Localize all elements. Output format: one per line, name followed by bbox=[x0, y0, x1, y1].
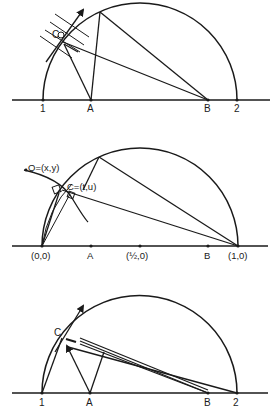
line-to-b-3 bbox=[80, 338, 208, 390]
figure-2: Q=(x,y) C=(t,u) (0,0) A (½,0) B (1,0) bbox=[12, 148, 268, 261]
label-1: 1 bbox=[39, 397, 45, 408]
label-c: C bbox=[52, 29, 59, 40]
hatch-line bbox=[45, 30, 80, 52]
point-1 bbox=[41, 98, 44, 101]
point-a bbox=[89, 244, 92, 247]
label-q: Q=(x,y) bbox=[28, 162, 59, 173]
label-one: (1,0) bbox=[228, 250, 248, 261]
label-half: (½,0) bbox=[126, 250, 148, 261]
line-top-to-b bbox=[100, 12, 208, 100]
label-c: C=(t,u) bbox=[67, 181, 96, 192]
label-c: C bbox=[54, 327, 61, 338]
geometry-diagrams: C 1 A B 2 Q=(x,y) C=(t,u) (0,0) A (½,0) bbox=[0, 0, 280, 420]
figure-3: C 1 A B 2 bbox=[12, 296, 268, 409]
point-2 bbox=[235, 98, 238, 101]
label-origin: (0,0) bbox=[31, 250, 51, 261]
hatch-line bbox=[55, 14, 89, 37]
line-to-b-2 bbox=[80, 344, 208, 393]
line-a-up bbox=[90, 352, 104, 393]
right-angle-marker-2 bbox=[67, 191, 75, 199]
label-a: A bbox=[87, 103, 94, 114]
point-q bbox=[25, 169, 28, 172]
label-b: B bbox=[204, 250, 210, 261]
arrow-a-to-c bbox=[67, 346, 90, 393]
line-to-2 bbox=[68, 347, 237, 393]
semicircle bbox=[42, 296, 237, 394]
label-b: B bbox=[204, 103, 211, 114]
line-top-to-one bbox=[99, 157, 238, 246]
point-half bbox=[138, 244, 141, 247]
short-segment-c bbox=[66, 339, 76, 342]
line-c-to-one bbox=[62, 190, 238, 246]
label-2: 2 bbox=[233, 397, 239, 408]
label-b: B bbox=[204, 397, 211, 408]
label-2: 2 bbox=[234, 103, 240, 114]
line-c-to-b bbox=[63, 42, 208, 100]
label-1: 1 bbox=[40, 103, 46, 114]
point-b bbox=[206, 244, 209, 247]
label-a: A bbox=[86, 397, 93, 408]
figure-1: C 1 A B 2 bbox=[12, 3, 270, 114]
semicircle bbox=[43, 3, 237, 100]
label-a: A bbox=[87, 250, 94, 261]
